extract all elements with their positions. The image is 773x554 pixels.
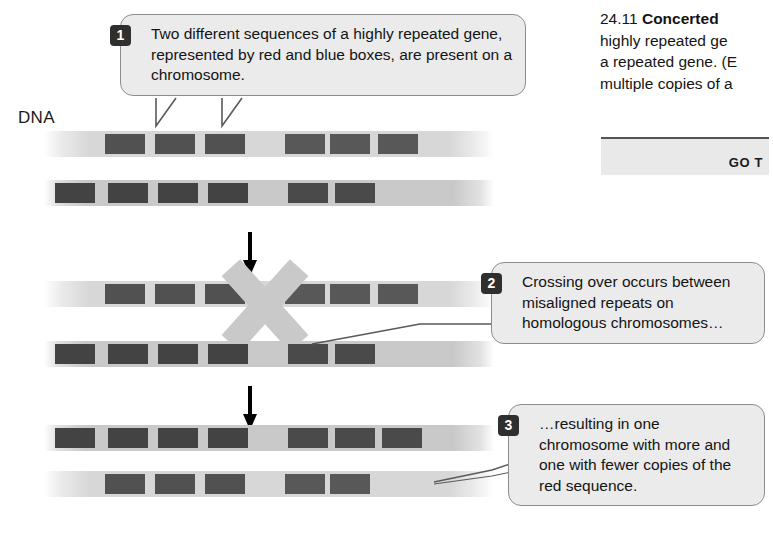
repeat-box [335, 183, 375, 203]
repeat-box [55, 344, 95, 364]
caption-number: 24.11 [600, 10, 638, 27]
callout-2-badge: 2 [481, 273, 502, 294]
callout-1-text: Two different sequences of a highly repe… [151, 24, 513, 86]
repeat-box [155, 474, 195, 494]
callout-2-leader [300, 300, 500, 350]
repeat-box [378, 134, 418, 154]
repeat-box [208, 344, 248, 364]
chromosome-2-top [44, 180, 494, 206]
repeat-box [158, 428, 198, 448]
repeat-box [55, 428, 95, 448]
go-to-button[interactable]: GO T [601, 137, 769, 175]
repeat-box [335, 428, 375, 448]
repeat-box [330, 474, 370, 494]
arrow-down-2 [243, 386, 257, 430]
caption-bold-word: Concerted [642, 10, 719, 27]
repeat-box [155, 284, 195, 304]
chromosome-1-result [44, 425, 494, 451]
repeat-box [158, 344, 198, 364]
repeat-box [208, 428, 248, 448]
callout-3-badge: 3 [498, 415, 519, 436]
callout-2[interactable]: 2 Crossing over occurs between misaligne… [491, 262, 765, 344]
callout-2-text: Crossing over occurs between misaligned … [522, 272, 752, 334]
callout-3[interactable]: 3 …resulting in one chromosome with more… [508, 404, 765, 506]
callout-1-leader [150, 96, 280, 138]
repeat-box [288, 428, 328, 448]
chromosome-2-result [44, 471, 494, 497]
repeat-box [108, 183, 148, 203]
repeat-box [105, 284, 145, 304]
caption-line-2: a repeated gene. (E [600, 53, 737, 70]
repeat-box [158, 183, 198, 203]
callout-1-badge: 1 [110, 25, 131, 46]
repeat-box [285, 474, 325, 494]
repeat-box [105, 134, 145, 154]
repeat-box [285, 134, 325, 154]
repeat-box [382, 428, 422, 448]
figure-caption: 24.11 Concerted highly repeated ge a rep… [600, 8, 773, 94]
go-to-label: GO T [729, 155, 763, 170]
repeat-box [108, 344, 148, 364]
repeat-box [55, 183, 95, 203]
repeat-box [208, 183, 248, 203]
repeat-box [205, 474, 245, 494]
caption-line-1: highly repeated ge [600, 32, 728, 49]
repeat-box [105, 474, 145, 494]
callout-1[interactable]: 1 Two different sequences of a highly re… [120, 14, 526, 96]
caption-line-3: multiple copies of a [600, 75, 733, 92]
repeat-box [288, 183, 328, 203]
repeat-box [330, 134, 370, 154]
repeat-box [108, 428, 148, 448]
crossover-x [222, 258, 308, 354]
callout-3-text: …resulting in one chromosome with more a… [539, 414, 752, 496]
dna-label: DNA [18, 108, 55, 128]
